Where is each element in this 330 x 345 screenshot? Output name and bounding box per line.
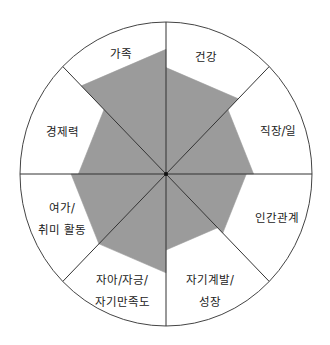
wheel-of-life-chart — [0, 0, 330, 345]
label-self-esteem: 자아/자긍/ 자기만족도 — [95, 269, 150, 313]
label-line: 성장 — [186, 291, 234, 313]
label-line: 자기계발/ — [186, 269, 234, 291]
label-health: 건강 — [195, 46, 217, 68]
center-dot — [164, 172, 168, 176]
label-work: 직장/일 — [260, 120, 297, 142]
label-leisure: 여가/ 취미 활동 — [38, 197, 86, 241]
label-line: 인간관계 — [255, 207, 299, 229]
label-self-development: 자기계발/ 성장 — [186, 269, 234, 313]
label-line: 경제력 — [46, 121, 79, 143]
label-line: 건강 — [195, 46, 217, 68]
sector-fills — [71, 49, 254, 272]
label-line: 취미 활동 — [38, 219, 86, 241]
label-family: 가족 — [110, 43, 132, 65]
label-line: 자아/자긍/ — [95, 269, 150, 291]
label-relationships: 인간관계 — [255, 207, 299, 229]
label-finance: 경제력 — [46, 121, 79, 143]
label-line: 여가/ — [38, 197, 86, 219]
label-line: 자기만족도 — [95, 291, 150, 313]
label-line: 직장/일 — [260, 120, 297, 142]
label-line: 가족 — [110, 43, 132, 65]
